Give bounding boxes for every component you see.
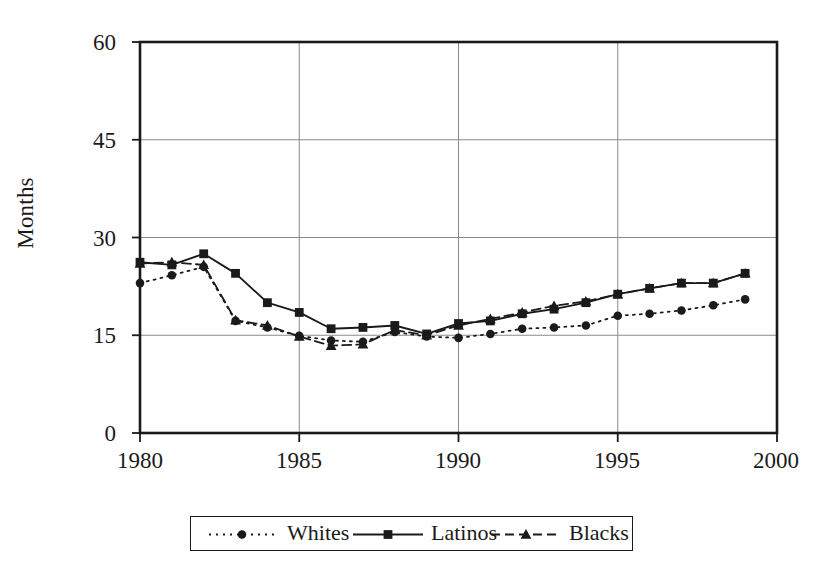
series-latinos — [136, 249, 750, 338]
data-point-whites — [136, 279, 145, 288]
data-point-whites — [582, 321, 591, 330]
data-point-latinos — [231, 269, 240, 278]
series-line-blacks — [140, 262, 745, 345]
data-point-whites — [709, 301, 718, 310]
data-point-whites — [550, 323, 559, 332]
series-blacks — [135, 257, 751, 350]
data-point-whites — [168, 271, 177, 280]
legend-marker-whites — [238, 530, 247, 539]
series-whites — [136, 263, 750, 347]
data-point-latinos — [327, 324, 336, 333]
legend-marker-latinos — [384, 530, 393, 539]
data-point-latinos — [359, 323, 368, 332]
legend-label-whites: Whites — [287, 522, 349, 544]
chart-legend: Whites Latinos Blacks — [190, 516, 633, 551]
legend-label-blacks: Blacks — [569, 522, 629, 544]
data-point-whites — [741, 295, 750, 304]
data-point-whites — [677, 306, 686, 315]
plot-area — [0, 0, 824, 585]
chart-figure: Months 60 45 30 15 0 1980 1985 1990 1995… — [0, 0, 824, 585]
data-point-whites — [645, 309, 654, 318]
legend-label-latinos: Latinos — [431, 522, 497, 544]
data-point-whites — [486, 330, 495, 339]
data-point-whites — [518, 324, 527, 333]
series-line-latinos — [140, 254, 745, 334]
data-point-whites — [454, 334, 463, 343]
data-point-latinos — [263, 298, 272, 307]
data-point-latinos — [295, 308, 304, 317]
data-point-whites — [613, 311, 622, 320]
data-point-latinos — [199, 249, 208, 258]
legend-symbols — [191, 517, 634, 552]
